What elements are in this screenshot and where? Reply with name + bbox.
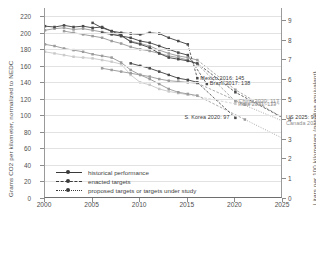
y-tick-label-left: 200 xyxy=(9,29,31,36)
y-tick-label-right: 5 xyxy=(288,96,304,103)
series-marker xyxy=(196,62,199,65)
series-marker xyxy=(91,35,94,38)
legend-label: proposed targets or targets under study xyxy=(88,187,196,194)
series-endpoint-label: Brazil 2017: 138 xyxy=(210,81,251,86)
y-tick-mark-right xyxy=(282,59,286,60)
series-line-enacted xyxy=(197,82,235,118)
y-tick-mark-left xyxy=(40,148,44,149)
chart-root: Grams CO2 per kilometer, normalized to N… xyxy=(0,0,316,255)
series-marker xyxy=(101,36,104,39)
legend-item: enacted targets xyxy=(56,177,196,186)
series-marker xyxy=(63,54,66,57)
y-tick-label-left: 160 xyxy=(9,62,31,69)
y-tick-label-left: 40 xyxy=(9,162,31,169)
x-tick-label: 2015 xyxy=(170,201,204,208)
series-marker xyxy=(120,61,123,64)
series-marker xyxy=(196,94,199,97)
series-marker xyxy=(168,36,171,39)
y-tick-label-left: 20 xyxy=(9,178,31,185)
series-marker xyxy=(120,42,123,45)
series-marker xyxy=(110,56,113,59)
y-tick-mark-left xyxy=(40,49,44,50)
series-marker xyxy=(120,70,123,73)
y-tick-label-left: 100 xyxy=(9,112,31,119)
legend-swatch xyxy=(56,177,82,186)
x-tick-mark xyxy=(139,198,140,202)
y-tick-label-left: 60 xyxy=(9,145,31,152)
series-marker xyxy=(148,84,151,87)
series-marker xyxy=(63,27,66,30)
series-line-historical xyxy=(102,33,188,55)
series-marker xyxy=(91,27,94,30)
series-marker xyxy=(148,75,151,78)
gridline xyxy=(45,115,281,116)
y-tick-mark-right xyxy=(282,158,286,159)
x-tick-label: 2005 xyxy=(75,201,109,208)
gridline xyxy=(45,165,281,166)
series-marker xyxy=(63,24,66,27)
legend-marker xyxy=(66,188,70,192)
series-marker xyxy=(82,56,85,59)
y-tick-mark-left xyxy=(40,115,44,116)
series-marker xyxy=(148,78,151,81)
y-tick-mark-right xyxy=(282,178,286,179)
series-line-historical xyxy=(45,52,188,95)
y-tick-mark-left xyxy=(40,165,44,166)
y-tick-mark-left xyxy=(40,16,44,17)
y-tick-mark-right xyxy=(282,79,286,80)
series-marker xyxy=(72,55,75,58)
series-marker xyxy=(158,52,161,55)
series-marker xyxy=(234,103,237,106)
legend-swatch xyxy=(56,168,82,177)
x-tick-label: 2025 xyxy=(265,201,299,208)
series-marker xyxy=(158,78,161,81)
gridline xyxy=(45,49,281,50)
series-marker xyxy=(168,52,171,55)
y-tick-label-right: 6 xyxy=(288,76,304,83)
series-marker xyxy=(72,26,75,29)
y-tick-label-right: 3 xyxy=(288,135,304,142)
x-tick-mark xyxy=(44,198,45,202)
series-marker xyxy=(187,79,190,82)
y-tick-mark-left xyxy=(40,132,44,133)
series-marker xyxy=(129,62,132,65)
gridline xyxy=(45,33,281,34)
legend-item: historical performance xyxy=(56,168,196,177)
y-tick-label-left: 180 xyxy=(9,46,31,53)
series-marker xyxy=(45,25,46,28)
series-marker xyxy=(101,67,104,70)
series-marker xyxy=(45,29,46,32)
y-tick-mark-left xyxy=(40,82,44,83)
series-endpoint-label: S. Korea 2020: 97 xyxy=(184,115,229,120)
x-tick-label: 2010 xyxy=(122,201,156,208)
series-marker xyxy=(139,74,142,77)
legend-label: historical performance xyxy=(88,169,149,176)
x-tick-mark xyxy=(282,198,283,202)
y-tick-label-right: 8 xyxy=(288,36,304,43)
x-tick-label: 2000 xyxy=(27,201,61,208)
series-marker xyxy=(91,29,94,32)
gridline xyxy=(45,66,281,67)
series-marker xyxy=(129,72,132,75)
series-marker xyxy=(110,40,113,43)
series-line-enacted xyxy=(197,63,281,118)
series-marker xyxy=(91,57,94,60)
y-tick-label-right: 9 xyxy=(288,16,304,23)
legend-marker xyxy=(66,170,70,174)
x-tick-label: 2020 xyxy=(217,201,251,208)
series-marker xyxy=(91,22,94,25)
series-marker xyxy=(110,60,113,63)
y-tick-label-right: 1 xyxy=(288,175,304,182)
series-marker xyxy=(234,89,237,92)
series-marker xyxy=(53,52,56,55)
series-endpoint-label: India 2021: 113 xyxy=(238,102,276,107)
y-tick-mark-right xyxy=(282,40,286,41)
legend-marker xyxy=(66,179,70,183)
y-axis-right-title: Liters per 100 kilometers (gasoline equi… xyxy=(311,71,316,205)
series-marker xyxy=(82,25,85,28)
series-line-historical xyxy=(45,44,197,95)
series-marker xyxy=(53,26,56,29)
gridline xyxy=(45,148,281,149)
y-tick-mark-left xyxy=(40,181,44,182)
series-marker xyxy=(158,70,161,73)
